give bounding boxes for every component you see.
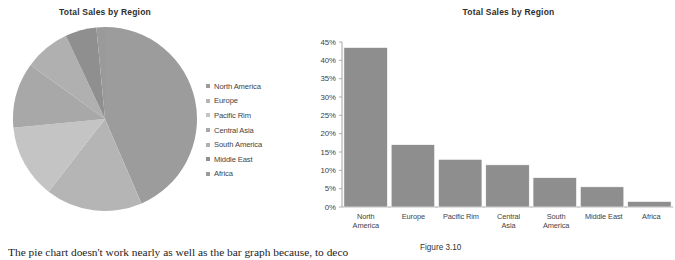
legend-item-label: Africa — [214, 169, 233, 178]
legend-item: Middle East — [206, 152, 318, 167]
x-axis-tick-label: Africa — [627, 212, 675, 231]
legend-item-label: Pacific Rim — [214, 111, 251, 120]
x-axis-tick-label: CentralAsia — [485, 212, 533, 231]
y-axis-tick-label: 40% — [320, 56, 336, 65]
y-axis-tick-label: 45% — [320, 38, 336, 47]
legend-item-label: North America — [214, 82, 261, 91]
bar — [486, 165, 530, 207]
legend-swatch-icon — [206, 172, 210, 176]
bar-svg: 0%5%10%15%20%25%30%35%40%45% — [316, 30, 675, 212]
legend-item-label: South America — [214, 140, 262, 149]
y-axis-tick-label: 10% — [320, 166, 336, 175]
bar — [628, 202, 672, 208]
x-axis-label-group: NorthAmericaEuropePacific RimCentralAsia… — [342, 212, 675, 231]
pie-svg — [12, 26, 198, 212]
x-axis-tick-label: SouthAmerica — [532, 212, 580, 231]
x-axis-tick-label-line: Central — [485, 212, 533, 221]
legend-swatch-icon — [206, 84, 210, 88]
legend-item: South America — [206, 137, 318, 152]
x-axis-tick-label: Pacific Rim — [437, 212, 485, 231]
legend-swatch-icon — [206, 143, 210, 147]
y-axis-tick-label: 20% — [320, 129, 336, 138]
x-axis-tick-label-line: Asia — [485, 221, 533, 230]
bar-chart-title: Total Sales by Region — [342, 7, 675, 17]
pie-chart-graphic — [12, 26, 198, 212]
x-axis-tick-label-line: Pacific Rim — [437, 212, 485, 221]
legend-swatch-icon — [206, 113, 210, 117]
y-axis-tick-label: 5% — [325, 184, 336, 193]
y-axis-tick-label: 15% — [320, 148, 336, 157]
x-axis-tick-label-line: North — [342, 212, 390, 221]
pie-chart-title: Total Sales by Region — [0, 7, 210, 17]
pie-chart-legend: North AmericaEuropePacific RimCentral As… — [206, 79, 318, 181]
y-axis-tick-label: 25% — [320, 111, 336, 120]
y-axis-tick-label: 35% — [320, 74, 336, 83]
y-axis-tick-label: 30% — [320, 93, 336, 102]
legend-swatch-icon — [206, 157, 210, 161]
y-axis-tick-group: 0%5%10%15%20%25%30%35%40%45% — [320, 38, 342, 212]
bar-chart-graphic: 0%5%10%15%20%25%30%35%40%45% — [316, 30, 675, 212]
bar — [438, 159, 482, 207]
x-axis-tick-label: NorthAmerica — [342, 212, 390, 231]
x-axis-tick-label-line: America — [532, 221, 580, 230]
bar-chart-panel: Total Sales by Region 0%5%10%15%20%25%30… — [316, 0, 675, 236]
x-axis-tick-label: Middle East — [580, 212, 628, 231]
legend-item-label: Central Asia — [214, 126, 254, 135]
legend-swatch-icon — [206, 99, 210, 103]
figure-caption: Figure 3.10 — [420, 243, 540, 252]
x-axis-tick-label-line: Europe — [390, 212, 438, 221]
bar — [344, 48, 388, 208]
bar — [533, 178, 577, 207]
bar-group — [344, 48, 671, 208]
legend-item-label: Europe — [214, 96, 238, 105]
x-axis-tick-label-line: America — [342, 221, 390, 230]
bar — [580, 187, 624, 207]
y-axis-tick-label: 0% — [325, 203, 336, 212]
pie-slice-group — [13, 27, 197, 211]
x-axis-tick-label-line: Middle East — [580, 212, 628, 221]
legend-item: Central Asia — [206, 123, 318, 138]
legend-item-label: Middle East — [214, 155, 253, 164]
legend-item: Africa — [206, 167, 318, 182]
body-paragraph: The pie chart doesn't work nearly as wel… — [8, 246, 348, 259]
bar — [391, 145, 435, 207]
legend-swatch-icon — [206, 128, 210, 132]
legend-item: Pacific Rim — [206, 108, 318, 123]
pie-chart-panel: Total Sales by Region North AmericaEurop… — [0, 0, 320, 232]
x-axis-tick-label: Europe — [390, 212, 438, 231]
legend-item: Europe — [206, 94, 318, 109]
x-axis-tick-label-line: South — [532, 212, 580, 221]
legend-item: North America — [206, 79, 318, 94]
x-axis-tick-label-line: Africa — [627, 212, 675, 221]
